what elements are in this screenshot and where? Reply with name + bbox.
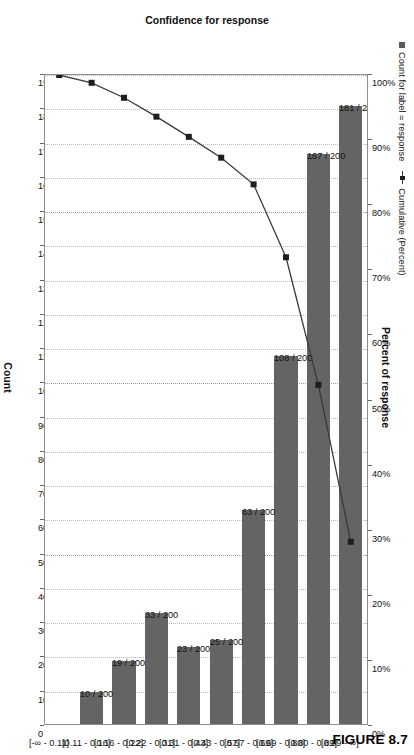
percent-tick-label: 60% <box>372 338 390 348</box>
percent-tick-mark <box>368 530 372 531</box>
percent-tick-label: 70% <box>372 273 390 283</box>
gridline <box>45 144 367 145</box>
gridline <box>45 109 367 110</box>
bar[interactable] <box>210 640 233 725</box>
percent-tick-label: 10% <box>372 664 390 674</box>
cumulative-marker[interactable] <box>89 80 95 86</box>
cumulative-marker[interactable] <box>153 114 159 120</box>
bar-value-label: 25 / 200 <box>210 637 243 647</box>
plot-area: 181 / 200167 / 200108 / 20063 / 20025 / … <box>44 74 368 725</box>
percent-tick-label: 50% <box>372 404 390 414</box>
legend-line-label: Cumulative (Percent) <box>397 188 407 275</box>
percent-tick-mark <box>368 725 372 726</box>
percent-tick-mark <box>368 400 372 401</box>
bar-value-label: 181 / 200 <box>339 103 368 113</box>
cumulative-marker[interactable] <box>251 181 257 187</box>
category-axis-title-holder: Confidence for response <box>0 14 414 28</box>
percent-tick-mark <box>368 595 372 596</box>
gridline <box>45 75 367 76</box>
count-axis-title: Count <box>2 362 14 392</box>
bar[interactable] <box>145 613 168 725</box>
percent-tick-mark <box>368 74 372 75</box>
bar[interactable] <box>274 356 297 725</box>
category-axis-title: Confidence for response <box>145 14 269 26</box>
pareto-chart: Count for label = responseCumulative (Pe… <box>0 0 414 755</box>
figure-caption: FIGURE 8.7 <box>332 732 408 747</box>
bar-value-label: 167 / 200 <box>307 151 345 161</box>
legend-bar-swatch-icon <box>399 42 405 48</box>
bar-value-label: 10 / 200 <box>80 689 113 699</box>
percent-tick-mark <box>368 269 372 270</box>
percent-tick-mark <box>368 465 372 466</box>
bar[interactable] <box>339 106 362 725</box>
percent-tick-mark <box>368 334 372 335</box>
percent-tick-label: 80% <box>372 208 390 218</box>
percent-tick-label: 20% <box>372 599 390 609</box>
percent-tick-label: 40% <box>372 469 390 479</box>
rotated-figure-wrapper: Count for label = responseCumulative (Pe… <box>0 0 414 755</box>
percent-tick-mark <box>368 139 372 140</box>
cumulative-marker[interactable] <box>283 254 289 260</box>
count-tick-mark <box>40 725 44 726</box>
bar-value-label: 0 / 200 <box>48 723 76 725</box>
bar-value-label: 108 / 200 <box>274 353 312 363</box>
chart-legend: Count for label = responseCumulative (Pe… <box>397 42 408 276</box>
bar-value-label: 33 / 200 <box>145 610 178 620</box>
category-label: [-∞ - 0.11] <box>29 738 69 748</box>
legend-bar-label: Count for label = response <box>397 52 407 161</box>
percent-tick-mark <box>368 660 372 661</box>
cumulative-marker[interactable] <box>218 155 224 161</box>
bar-value-label: 23 / 200 <box>177 644 210 654</box>
bar-value-label: 63 / 200 <box>242 507 275 517</box>
bar[interactable] <box>177 647 200 725</box>
cumulative-marker[interactable] <box>186 134 192 140</box>
legend-line-swatch-icon <box>399 171 405 184</box>
percent-tick-mark <box>368 204 372 205</box>
bar[interactable] <box>242 510 265 725</box>
bar-value-label: 19 / 200 <box>112 658 145 668</box>
bar[interactable] <box>307 154 330 725</box>
percent-tick-label: 100% <box>372 78 396 88</box>
bar[interactable] <box>112 661 135 725</box>
percent-tick-label: 30% <box>372 534 390 544</box>
cumulative-marker[interactable] <box>121 95 127 101</box>
percent-tick-label: 90% <box>372 143 390 153</box>
